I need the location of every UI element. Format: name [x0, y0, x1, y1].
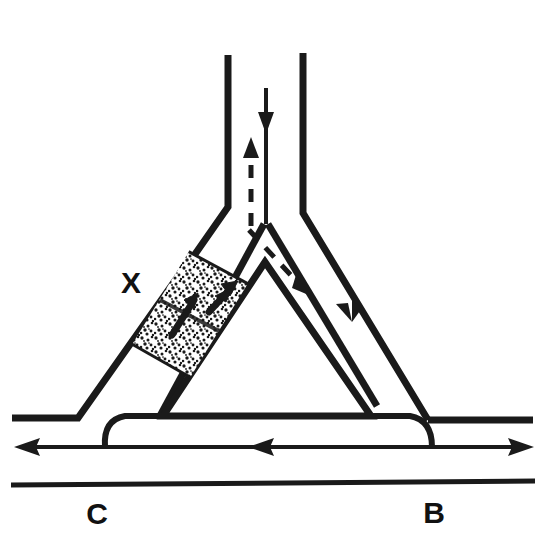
right-reference-label: B [423, 496, 445, 529]
zone-marker-label: X [121, 266, 141, 299]
right-curved-connector [371, 416, 432, 447]
upward-dashed-flow-arrow [243, 137, 259, 226]
left-curved-connector [105, 416, 163, 447]
bottom-flow-line [14, 438, 534, 456]
right-riser-wall [303, 53, 428, 420]
downward-flow-arrow [258, 88, 274, 224]
bottom-baseline [11, 481, 535, 485]
figure-root: X C B [0, 0, 544, 550]
flow-diagram-svg: X C B [0, 0, 544, 550]
left-reference-label: C [86, 497, 108, 530]
